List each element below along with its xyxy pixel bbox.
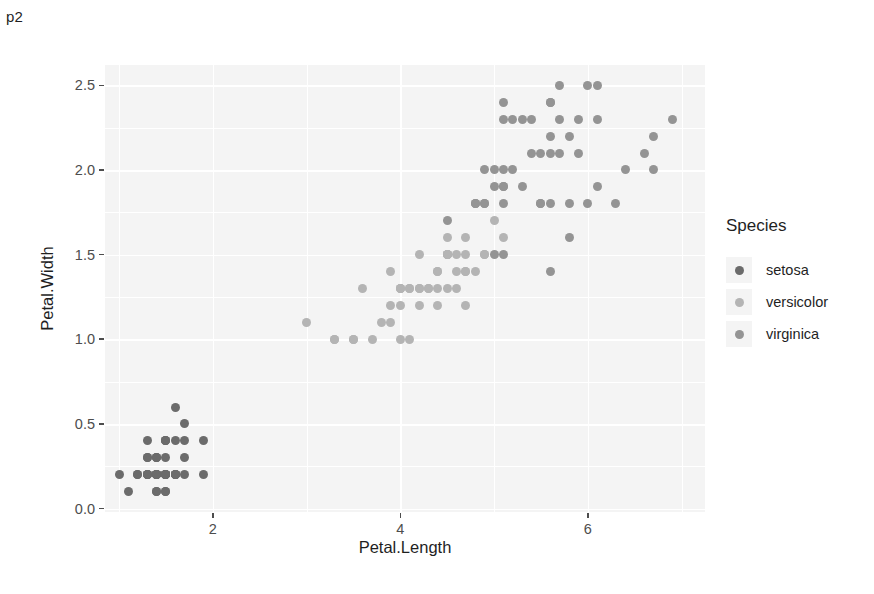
data-point	[490, 165, 499, 174]
x-tick-mark	[400, 513, 402, 518]
gridline-minor-horizontal	[105, 128, 705, 129]
data-point	[480, 199, 489, 208]
data-point	[490, 182, 499, 191]
data-point	[555, 149, 564, 158]
data-point	[593, 182, 602, 191]
gridline-minor-vertical	[682, 65, 683, 512]
legend-item-versicolor[interactable]: versicolor	[726, 286, 828, 318]
x-tick-mark	[212, 513, 214, 518]
gridline-minor-horizontal	[105, 382, 705, 383]
data-point	[480, 250, 489, 259]
y-tick-mark	[99, 85, 104, 87]
data-point	[161, 436, 170, 445]
gridline-minor-vertical	[494, 65, 495, 512]
gridline-major-horizontal	[105, 255, 705, 257]
data-point	[415, 301, 424, 310]
data-point	[152, 453, 161, 462]
data-point	[161, 470, 170, 479]
data-point	[396, 284, 405, 293]
data-point	[565, 199, 574, 208]
data-point	[349, 335, 358, 344]
data-point	[180, 436, 189, 445]
y-tick-label: 0.5	[57, 416, 95, 432]
data-point	[433, 267, 442, 276]
data-point	[490, 216, 499, 225]
legend-item-label: versicolor	[766, 294, 828, 310]
y-tick-label: 0.0	[57, 501, 95, 517]
data-point	[565, 233, 574, 242]
data-point	[424, 284, 433, 293]
data-point	[574, 149, 583, 158]
data-point	[555, 115, 564, 124]
data-point	[583, 81, 592, 90]
y-tick-label: 1.0	[57, 331, 95, 347]
legend-dot-icon	[735, 298, 744, 307]
y-tick-label: 2.0	[57, 162, 95, 178]
data-point	[508, 115, 517, 124]
data-point	[499, 182, 508, 191]
y-tick-mark	[99, 508, 104, 510]
data-point	[649, 132, 658, 141]
chart-figure: 0.00.51.01.52.02.5 246 Petal.Length Peta…	[0, 40, 874, 594]
data-point	[649, 165, 658, 174]
legend-item-label: setosa	[766, 262, 809, 278]
data-point	[171, 470, 180, 479]
data-point	[386, 318, 395, 327]
gridline-major-horizontal	[105, 170, 705, 172]
data-point	[143, 453, 152, 462]
data-point	[480, 165, 489, 174]
data-point	[415, 250, 424, 259]
x-tick-label: 4	[396, 521, 404, 537]
data-point	[461, 250, 470, 259]
data-point	[405, 284, 414, 293]
data-point	[490, 250, 499, 259]
data-point	[546, 132, 555, 141]
legend-item-setosa[interactable]: setosa	[726, 254, 828, 286]
data-point	[518, 115, 527, 124]
data-point	[152, 470, 161, 479]
data-point	[199, 436, 208, 445]
data-point	[461, 267, 470, 276]
gridline-major-horizontal	[105, 424, 705, 426]
data-point	[499, 165, 508, 174]
legend-item-virginica[interactable]: virginica	[726, 318, 828, 350]
legend-items: setosaversicolorvirginica	[726, 254, 828, 350]
gridline-major-vertical	[588, 65, 590, 512]
data-point	[124, 487, 133, 496]
data-point	[518, 182, 527, 191]
legend-dot-icon	[735, 330, 744, 339]
data-point	[593, 81, 602, 90]
y-tick-mark	[99, 338, 104, 340]
page-label: p2	[6, 8, 23, 25]
x-axis-title: Petal.Length	[105, 538, 705, 557]
data-point	[611, 199, 620, 208]
gridline-minor-horizontal	[105, 212, 705, 213]
data-point	[499, 115, 508, 124]
data-point	[405, 335, 414, 344]
data-point	[461, 301, 470, 310]
data-point	[377, 318, 386, 327]
gridline-major-horizontal	[105, 509, 705, 511]
data-point	[199, 470, 208, 479]
data-point	[583, 199, 592, 208]
data-point	[443, 284, 452, 293]
data-point	[443, 250, 452, 259]
data-point	[499, 233, 508, 242]
data-point	[433, 301, 442, 310]
data-point	[161, 487, 170, 496]
data-point	[115, 470, 124, 479]
data-point	[536, 149, 545, 158]
data-point	[180, 453, 189, 462]
gridline-major-vertical	[213, 65, 215, 512]
data-point	[396, 335, 405, 344]
gridline-minor-horizontal	[105, 466, 705, 467]
data-point	[499, 199, 508, 208]
data-point	[143, 436, 152, 445]
data-point	[546, 267, 555, 276]
data-point	[452, 267, 461, 276]
data-point	[555, 81, 564, 90]
data-point	[668, 115, 677, 124]
y-tick-mark	[99, 254, 104, 256]
data-point	[546, 199, 555, 208]
y-axis-title: Petal.Width	[38, 65, 60, 512]
